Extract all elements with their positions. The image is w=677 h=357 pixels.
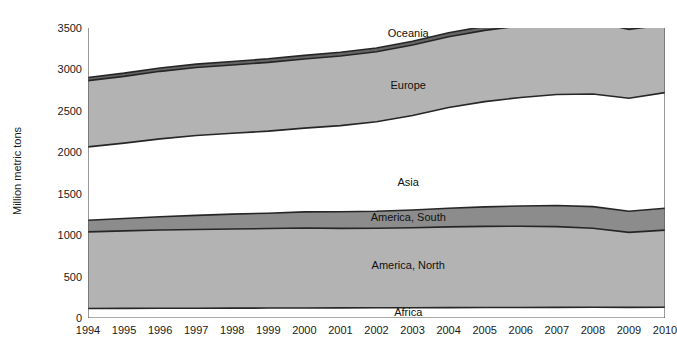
- y-axis-tick-label: 3000: [58, 63, 82, 75]
- x-axis-tick-label: 2008: [581, 324, 605, 336]
- x-axis-tick-label: 1996: [148, 324, 172, 336]
- x-axis-tick-label: 1995: [112, 324, 136, 336]
- x-axis-tick-label: 2000: [292, 324, 316, 336]
- x-axis-tick-label: 2009: [617, 324, 641, 336]
- x-axis-tick-label: 2001: [328, 324, 352, 336]
- y-axis-tick-label: 2500: [58, 105, 82, 117]
- x-axis-tick-label: 1998: [220, 324, 244, 336]
- x-axis-tick-label: 1997: [184, 324, 208, 336]
- plot-svg: [88, 28, 665, 318]
- x-axis-tick-label: 2003: [400, 324, 424, 336]
- stacked-area-chart: 0500100015002000250030003500 Million met…: [0, 0, 677, 357]
- area-band-america-north: [88, 226, 665, 308]
- y-axis-tick-label: 1500: [58, 188, 82, 200]
- x-axis-tick-label: 2004: [436, 324, 460, 336]
- x-axis-tick-label: 2007: [545, 324, 569, 336]
- x-axis-tick-label: 2002: [364, 324, 388, 336]
- y-axis-tick-label: 0: [76, 312, 82, 324]
- plot-area: [88, 28, 665, 318]
- y-axis-tick-label: 2000: [58, 146, 82, 158]
- x-axis-tick-label: 2006: [509, 324, 533, 336]
- x-axis-tick-label: 1999: [256, 324, 280, 336]
- y-axis-tick-label: 500: [64, 271, 82, 283]
- x-axis-tick-label: 2005: [472, 324, 496, 336]
- x-axis-tick-label: 2010: [653, 324, 677, 336]
- y-axis-tick-label: 3500: [58, 22, 82, 34]
- y-axis-tick-label: 1000: [58, 229, 82, 241]
- x-axis-tick-label: 1994: [76, 324, 100, 336]
- y-axis-title: Million metric tons: [11, 96, 23, 246]
- x-axis-tick-labels: 1994199519961997199819992000200120022003…: [0, 324, 677, 344]
